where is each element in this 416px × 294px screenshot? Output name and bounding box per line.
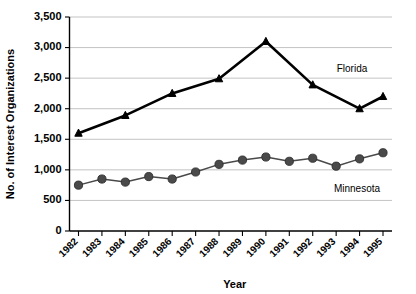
series-florida [75,37,387,136]
x-axis-ticks: 1982198319841985198619871988198919901991… [56,231,384,259]
y-axis-title: No. of Interest Organizations [4,49,16,199]
data-point-marker [238,156,246,164]
y-tick-label: 1,500 [34,132,62,144]
series-label-florida: Florida [337,63,368,74]
data-point-marker [168,175,176,183]
series-line-florida [79,41,384,133]
x-tick-label: 1991 [267,235,291,259]
data-point-marker [74,181,82,189]
x-tick-label: 1995 [361,235,385,259]
x-tick-label: 1983 [80,235,104,259]
x-tick-label: 1993 [314,235,338,259]
chart-container: 05001,0001,5002,0002,5003,0003,500198219… [0,0,416,294]
data-point-marker [145,172,153,180]
x-tick-label: 1985 [127,235,151,259]
data-point-marker [379,92,386,99]
data-point-marker [98,175,106,183]
data-point-marker [192,168,200,176]
data-point-marker [332,162,340,170]
x-tick-label: 1992 [291,235,315,259]
y-tick-label: 1,000 [34,163,62,175]
y-tick-label: 0 [55,224,61,236]
data-point-marker [355,155,363,163]
data-point-marker [309,154,317,162]
data-point-marker [379,149,387,157]
y-tick-label: 2,500 [34,71,62,83]
data-point-marker [215,160,223,168]
x-tick-label: 1987 [174,235,198,259]
data-point-marker [262,153,270,161]
x-tick-label: 1984 [103,235,127,259]
x-tick-label: 1994 [337,235,361,259]
data-point-marker [121,178,129,186]
y-tick-label: 3,000 [34,40,62,52]
y-gridlines: 05001,0001,5002,0002,5003,0003,500 [34,10,392,236]
x-tick-label: 1989 [220,235,244,259]
x-axis-title: Year [223,278,247,290]
x-tick-label: 1986 [150,235,174,259]
y-tick-label: 2,000 [34,102,62,114]
x-tick-label: 1988 [197,235,221,259]
x-tick-label: 1990 [244,235,268,259]
data-point-marker [285,157,293,165]
y-tick-label: 3,500 [34,10,62,22]
y-tick-label: 500 [43,193,61,205]
x-tick-label: 1982 [56,235,80,259]
line-chart: 05001,0001,5002,0002,5003,0003,500198219… [0,0,416,294]
series-label-minnesota: Minnesota [334,183,381,194]
data-point-marker [262,37,269,44]
